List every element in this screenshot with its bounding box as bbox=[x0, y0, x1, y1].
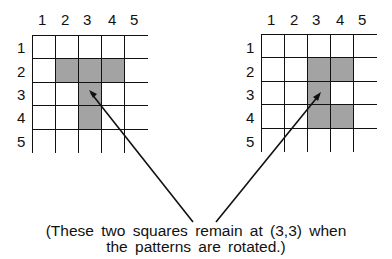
pointer-lines bbox=[0, 0, 392, 259]
right-pointer-line bbox=[216, 95, 319, 222]
caption-line-2: the patterns are rotated.) bbox=[0, 239, 392, 255]
left-arrowhead-icon bbox=[89, 90, 97, 98]
left-pointer-line bbox=[91, 93, 193, 222]
caption-line-1: (These two squares remain at (3,3) when bbox=[0, 223, 392, 239]
